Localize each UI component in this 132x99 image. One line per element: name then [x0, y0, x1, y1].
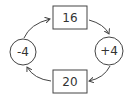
- node-left-circle: -4: [10, 39, 36, 65]
- node-bottom-box: 20: [53, 70, 87, 93]
- node-right-circle: +4: [95, 37, 123, 65]
- node-top-label: 16: [62, 11, 77, 25]
- arrow-right-to-bottom: [89, 66, 110, 81]
- arrow-top-to-right: [89, 20, 109, 34]
- cycle-diagram: 16 +4 20 -4: [0, 0, 132, 99]
- node-right-label: +4: [100, 44, 118, 58]
- arrow-left-to-top: [24, 19, 50, 38]
- arrow-bottom-to-left: [27, 67, 51, 81]
- node-bottom-label: 20: [62, 75, 77, 89]
- node-left-label: -4: [17, 45, 29, 59]
- node-top-box: 16: [53, 6, 87, 29]
